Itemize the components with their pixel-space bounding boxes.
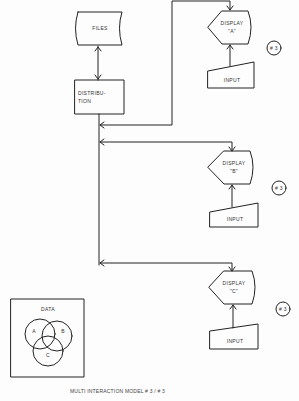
badge-b-label: # 3 [271, 185, 287, 192]
display-b-label-line1: DISPLAY [214, 160, 254, 167]
data-legend-title: DATA [36, 306, 60, 313]
display-a-label-line1: DISPLAY [212, 20, 252, 27]
venn-c-label: C [44, 352, 52, 359]
input-a-arrow [227, 45, 233, 66]
branch-c [100, 260, 235, 271]
input-b-arrow [229, 185, 235, 207]
display-b-label-line2: "B" [214, 168, 254, 175]
input-b-label: INPUT [212, 216, 258, 223]
input-c-shape [210, 324, 258, 349]
venn-a-label: A [30, 328, 38, 335]
input-a-label: INPUT [210, 77, 254, 84]
files-distribution-arrow [95, 46, 101, 80]
distribution-label-line1: DISTRIBU- [78, 90, 118, 97]
badge-a-label: # 3 [266, 45, 282, 52]
input-c-label: INPUT [212, 338, 258, 345]
diagram-caption: MULTI INTERACTION MODEL # 3 / # 3 [70, 388, 165, 394]
display-a-label-line2: "A" [212, 28, 252, 35]
input-b-shape [210, 203, 258, 227]
distribution-label-line2: TION [78, 98, 118, 105]
files-label: FILES [84, 25, 116, 32]
diagram-canvas: FILES DISTRIBU- TION DISPLAY "A" INPUT #… [0, 0, 299, 401]
venn-b-label: B [59, 328, 67, 335]
display-c-label-line1: DISPLAY [214, 280, 254, 287]
input-a-shape [208, 62, 254, 88]
branch-b [100, 139, 235, 151]
badge-c-label: # 3 [275, 306, 291, 313]
input-c-arrow [230, 305, 236, 328]
display-c-label-line2: "C" [214, 288, 254, 295]
distribution-shape [75, 80, 124, 114]
